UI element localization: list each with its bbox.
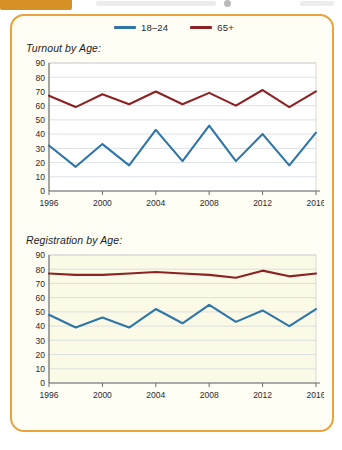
y-axis-tick-label: 90: [36, 58, 46, 68]
y-axis-tick-label: 10: [36, 364, 46, 374]
plot-background: [49, 63, 316, 191]
orange-tab[interactable]: [0, 0, 72, 10]
charts-card: 18–24 65+ Turnout by Age: 01020304050607…: [10, 14, 334, 432]
cropped-toolbar-text-right: [300, 1, 334, 6]
cropped-toolbar-icon: [224, 0, 231, 7]
y-axis-tick-label: 40: [36, 129, 46, 139]
legend-swatch-65-plus: [190, 26, 212, 30]
x-axis-tick-label: 2016: [307, 198, 324, 208]
browser-top-strip: [0, 0, 342, 12]
x-axis-tick-label: 2000: [93, 198, 112, 208]
chart-registration-by-age: Registration by Age: 0102030405060708090…: [24, 234, 324, 409]
x-axis-tick-label: 2016: [307, 390, 324, 400]
chart-turnout-by-age: Turnout by Age: 010203040506070809019962…: [24, 42, 324, 217]
legend-item-65-plus[interactable]: 65+: [190, 22, 234, 33]
y-axis-tick-label: 60: [36, 101, 46, 111]
y-axis-tick-label: 30: [36, 144, 46, 154]
y-axis-tick-label: 20: [36, 158, 46, 168]
y-axis-tick-label: 70: [36, 279, 46, 289]
y-axis-tick-label: 90: [36, 250, 46, 260]
y-axis-tick-label: 30: [36, 336, 46, 346]
x-axis-tick-label: 2000: [93, 390, 112, 400]
chart-title-turnout: Turnout by Age:: [26, 42, 324, 54]
plot-area-turnout: 0102030405060708090199620002004200820122…: [24, 57, 324, 217]
line-chart-registration: 0102030405060708090199620002004200820122…: [24, 249, 324, 409]
legend-label-65-plus: 65+: [217, 22, 234, 33]
y-axis-tick-label: 80: [36, 73, 46, 83]
y-axis-tick-label: 50: [36, 307, 46, 317]
cropped-toolbar-text: [96, 1, 216, 6]
y-axis-tick-label: 70: [36, 87, 46, 97]
x-axis-tick-label: 2012: [253, 390, 272, 400]
chart-title-registration: Registration by Age:: [26, 234, 324, 246]
x-axis-tick-label: 2012: [253, 198, 272, 208]
y-axis-tick-label: 0: [40, 186, 45, 196]
y-axis-tick-label: 0: [40, 378, 45, 388]
y-axis-tick-label: 20: [36, 350, 46, 360]
y-axis-tick-label: 80: [36, 265, 46, 275]
x-axis-tick-label: 2004: [146, 198, 165, 208]
x-axis-tick-label: 2008: [200, 198, 219, 208]
y-axis-tick-label: 50: [36, 115, 46, 125]
y-axis-tick-label: 40: [36, 321, 46, 331]
legend-label-18-24: 18–24: [141, 22, 168, 33]
x-axis-tick-label: 2004: [146, 390, 165, 400]
y-axis-tick-label: 60: [36, 293, 46, 303]
legend-swatch-18-24: [114, 26, 136, 30]
x-axis-tick-label: 2008: [200, 390, 219, 400]
chart-legend: 18–24 65+: [12, 22, 336, 33]
x-axis-tick-label: 1996: [40, 390, 59, 400]
y-axis-tick-label: 10: [36, 172, 46, 182]
legend-item-18-24[interactable]: 18–24: [114, 22, 168, 33]
line-chart-turnout: 0102030405060708090199620002004200820122…: [24, 57, 324, 217]
x-axis-tick-label: 1996: [40, 198, 59, 208]
plot-area-registration: 0102030405060708090199620002004200820122…: [24, 249, 324, 409]
